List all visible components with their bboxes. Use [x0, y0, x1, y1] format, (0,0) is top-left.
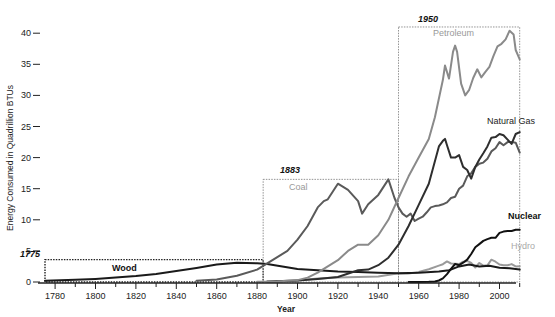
series-label-petroleum: Petroleum: [433, 28, 474, 38]
y-axis-title: Energy Consumed in Quadrillion BTUs: [5, 85, 15, 231]
y-tick-label: 35: [21, 59, 31, 69]
y-tick-label: 15: [21, 184, 31, 194]
era-boxes: [45, 27, 520, 282]
x-tick-label: 1980: [449, 291, 469, 301]
x-tick-label: 1900: [287, 291, 307, 301]
y-tick-label: 0: [26, 277, 31, 287]
x-tick-label: 1860: [207, 291, 227, 301]
era-label-1775: 1775: [20, 249, 41, 259]
x-tick-label: 1840: [166, 291, 186, 301]
x-tick-label: 1940: [368, 291, 388, 301]
x-tick-label: 1880: [247, 291, 267, 301]
series-label-natural-gas: Natural Gas: [487, 116, 536, 126]
y-tick-label: 20: [21, 153, 31, 163]
era-label-1883: 1883: [280, 165, 300, 175]
series-label-wood: Wood: [112, 263, 137, 273]
x-tick-label: 1920: [328, 291, 348, 301]
x-tick-label: 1800: [85, 291, 105, 301]
series-label-coal: Coal: [289, 182, 308, 192]
y-tick-label: 10: [21, 215, 31, 225]
y-tick-label: 25: [21, 122, 31, 132]
series-label-hydro: Hydro: [511, 241, 535, 251]
series-line-nuclear: [409, 230, 520, 282]
x-tick-label: 2000: [489, 291, 509, 301]
series-lines: [45, 31, 520, 282]
x-tick-label: 1820: [126, 291, 146, 301]
x-axis-ticks: 1780180018201840186018801900192019401960…: [45, 283, 520, 301]
y-tick-label: 30: [21, 90, 31, 100]
x-tick-label: 1960: [409, 291, 429, 301]
energy-consumption-chart: 1780180018201840186018801900192019401960…: [0, 0, 555, 317]
x-axis-title: Year: [277, 304, 296, 314]
y-tick-label: 40: [21, 28, 31, 38]
series-label-nuclear: Nuclear: [508, 211, 542, 221]
x-tick-label: 1780: [45, 291, 65, 301]
era-label-1950: 1950: [418, 14, 438, 24]
